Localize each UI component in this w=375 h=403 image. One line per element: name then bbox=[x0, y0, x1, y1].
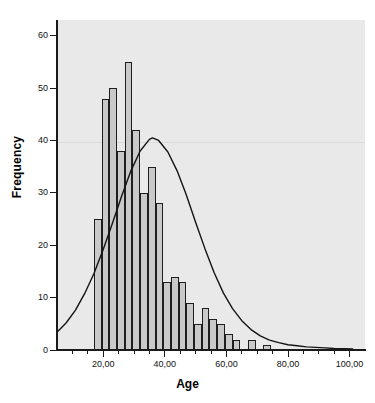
x-axis-minor-tick bbox=[195, 351, 196, 354]
x-axis-minor-tick bbox=[72, 351, 73, 354]
y-axis-tick bbox=[50, 35, 56, 36]
x-axis-minor-tick bbox=[272, 351, 273, 354]
x-axis-minor-tick bbox=[211, 351, 212, 354]
x-axis-tick bbox=[164, 351, 165, 357]
x-axis-minor-tick bbox=[303, 351, 304, 354]
x-axis-minor-tick bbox=[149, 351, 150, 354]
y-axis-tick bbox=[50, 297, 56, 298]
x-axis-tick-label: 20,00 bbox=[81, 360, 125, 369]
x-axis-tick bbox=[226, 351, 227, 357]
x-axis-title: Age bbox=[0, 377, 375, 391]
x-axis-minor-tick bbox=[241, 351, 242, 354]
x-axis-minor-tick bbox=[87, 351, 88, 354]
x-axis-tick-label: 40,00 bbox=[143, 360, 187, 369]
x-axis-tick bbox=[349, 351, 350, 357]
y-axis-tick bbox=[50, 192, 56, 193]
x-axis-tick-label: 60,00 bbox=[204, 360, 248, 369]
y-axis-tick-label: 50 bbox=[18, 84, 48, 93]
y-axis-line bbox=[56, 20, 58, 351]
x-axis-minor-tick bbox=[318, 351, 319, 354]
y-axis-tick bbox=[50, 350, 56, 351]
x-axis-tick-label: 80,00 bbox=[266, 360, 310, 369]
x-axis-minor-tick bbox=[257, 351, 258, 354]
y-axis-title: Frequency bbox=[10, 117, 24, 217]
y-axis-tick-label: 10 bbox=[18, 293, 48, 302]
y-axis-tick-label: 0 bbox=[18, 346, 48, 355]
x-axis-tick bbox=[103, 351, 104, 357]
normal-curve-svg bbox=[57, 20, 365, 350]
y-axis-tick-label: 20 bbox=[18, 241, 48, 250]
x-axis-minor-tick bbox=[334, 351, 335, 354]
x-axis-minor-tick bbox=[118, 351, 119, 354]
y-axis-tick-label: 60 bbox=[18, 31, 48, 40]
histogram-chart: 010203040506020,0040,0060,0080,00100,00 … bbox=[0, 0, 375, 403]
x-axis-tick-label: 100,00 bbox=[328, 360, 372, 369]
x-axis-minor-tick bbox=[180, 351, 181, 354]
normal-curve-path bbox=[57, 138, 353, 349]
y-axis-tick bbox=[50, 88, 56, 89]
x-axis-tick bbox=[288, 351, 289, 357]
y-axis-tick bbox=[50, 245, 56, 246]
y-axis-tick bbox=[50, 140, 56, 141]
x-axis-minor-tick bbox=[134, 351, 135, 354]
